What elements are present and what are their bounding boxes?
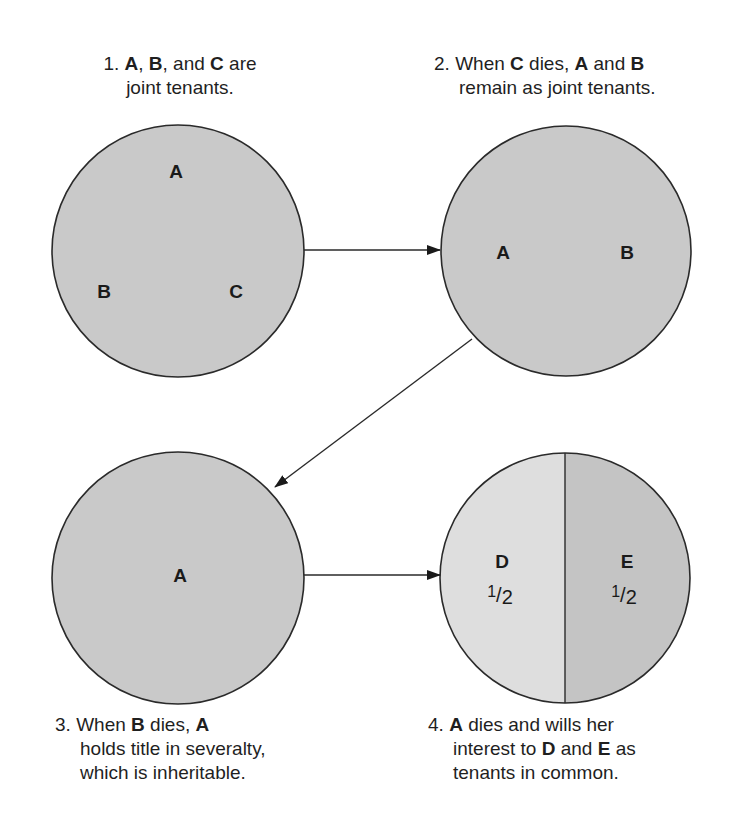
label-c2-a: A bbox=[496, 242, 510, 264]
diagram-canvas bbox=[0, 0, 742, 826]
label-c3-a: A bbox=[173, 565, 187, 587]
label-c1-a: A bbox=[169, 161, 183, 183]
label-c1-b: B bbox=[97, 281, 111, 303]
arrow-step2-to-step3 bbox=[275, 339, 472, 487]
caption-step1: 1. A, B, and C are joint tenants. bbox=[80, 52, 280, 100]
share-c4-d: 1/2 bbox=[487, 583, 513, 609]
label-c4-d: D bbox=[495, 551, 509, 573]
caption-step2: 2. When C dies, A and B remain as joint … bbox=[434, 52, 655, 100]
circle-step2 bbox=[441, 126, 691, 376]
label-c1-c: C bbox=[229, 281, 243, 303]
label-c2-b: B bbox=[620, 242, 634, 264]
share-c4-e: 1/2 bbox=[611, 583, 637, 609]
caption-step3: 3. When B dies, A holds title in several… bbox=[55, 713, 266, 785]
caption-step4: 4. A dies and wills her interest to D an… bbox=[428, 713, 636, 785]
label-c4-e: E bbox=[621, 551, 634, 573]
